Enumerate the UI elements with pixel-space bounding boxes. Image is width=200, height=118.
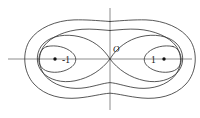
right-focus-point bbox=[162, 57, 165, 60]
left-focus-point bbox=[53, 57, 56, 60]
right-focus-label: 1 bbox=[151, 55, 156, 65]
left-focus-label: -1 bbox=[62, 55, 70, 65]
cassini-ovals-figure: -1 1 O bbox=[0, 0, 200, 118]
origin-label: O bbox=[113, 44, 120, 54]
cassini-ovals-canvas: -1 1 O bbox=[0, 0, 200, 118]
